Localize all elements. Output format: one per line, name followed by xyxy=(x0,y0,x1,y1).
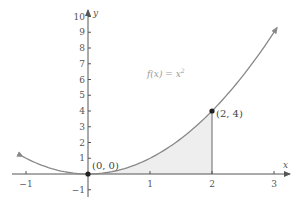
function-label: f(x) = x2 xyxy=(146,67,185,79)
point-marker xyxy=(209,108,214,113)
point-label: (2, 4) xyxy=(216,108,243,119)
x-tick-label: 2 xyxy=(209,179,215,189)
y-tick-label: 9 xyxy=(79,27,85,37)
x-tick-label: −1 xyxy=(19,179,32,189)
y-tick-label: −1 xyxy=(72,185,85,195)
point-marker xyxy=(85,171,90,176)
point-label: (0, 0) xyxy=(92,160,119,171)
x-tick-label: 3 xyxy=(271,179,277,189)
y-tick-label: 1 xyxy=(79,153,85,163)
function-plot: −1123 x −112345678910 y f(x) = x2 (0, 0)… xyxy=(0,0,303,205)
y-tick-label: 6 xyxy=(79,75,85,85)
x-tick-label: 1 xyxy=(147,179,153,189)
y-tick-label: 10 xyxy=(74,12,86,22)
parabola-curve xyxy=(23,27,277,174)
y-tick-label: 3 xyxy=(79,122,85,132)
y-axis-label: y xyxy=(92,8,99,18)
y-tick-label: 5 xyxy=(79,90,85,100)
y-tick-label: 4 xyxy=(79,106,85,116)
y-tick-label: 8 xyxy=(79,43,85,53)
function-label-exponent: 2 xyxy=(180,67,185,74)
y-tick-label: 7 xyxy=(79,59,85,69)
function-label-text: f(x) = x xyxy=(146,69,181,79)
x-axis-label: x xyxy=(283,160,288,170)
y-tick-label: 2 xyxy=(79,138,85,148)
